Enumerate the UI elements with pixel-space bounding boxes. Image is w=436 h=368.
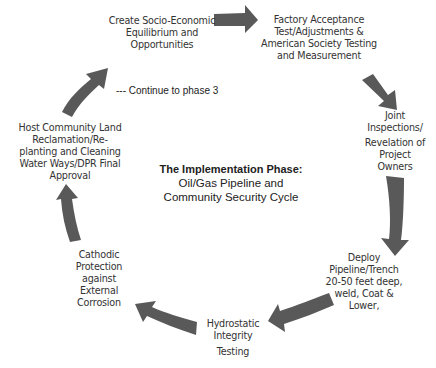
step-text: 20-50 feet deep, [324, 276, 404, 288]
step-text: Factory Acceptance [255, 14, 383, 26]
step-text: Inspections/ [360, 122, 430, 134]
continue-phase-note: --- Continue to phase 3 [116, 85, 218, 96]
step-factory-acceptance: Factory Acceptance Test/Adjustments & Am… [255, 14, 383, 62]
step-text: planting and Cleaning [6, 146, 134, 158]
step-text: Protection [66, 261, 132, 273]
step-text: Revelation of [360, 137, 430, 149]
step-text: Reclamation/Re- [6, 134, 134, 146]
step-text: Cathodic [66, 249, 132, 261]
step-joint-inspections: Joint Inspections/ Revelation of Project… [360, 110, 430, 173]
step-text: Project [360, 149, 430, 161]
step-text: Host Community Land [6, 122, 134, 134]
step-text: American Society Testing [255, 38, 383, 50]
step-hydrostatic-testing: Hydrostatic Integrity Testing [198, 318, 268, 358]
step-text: against [66, 273, 132, 285]
step-cathodic-protection: Cathodic Protection against External Cor… [66, 249, 132, 309]
step-text: Opportunities [101, 39, 223, 51]
step-text: Integrity [198, 330, 268, 342]
step-text: Owners [360, 161, 430, 173]
step-text: External [66, 285, 132, 297]
arrow-down-right-icon [362, 74, 397, 110]
step-text: weld, Coat & [324, 288, 404, 300]
arrow-left-bottom-icon [135, 301, 197, 335]
step-text: Pipeline/Trench [324, 264, 404, 276]
step-text: Corrosion [66, 297, 132, 309]
step-text: Water Ways/DPR Final [6, 158, 134, 170]
arrow-down-icon [381, 176, 409, 256]
title-heading: The Implementation Phase: [146, 162, 316, 176]
step-text: Hydrostatic [198, 318, 268, 330]
arrow-up-left-icon [56, 184, 81, 242]
step-text: Joint [360, 110, 430, 122]
step-text: Test/Adjustments & [255, 26, 383, 38]
step-text: Create Socio-Economic [101, 15, 223, 27]
step-text: Lower, [324, 300, 404, 312]
step-text: Deploy [324, 252, 404, 264]
step-text: Approval [6, 170, 134, 182]
diagram-title: The Implementation Phase: Oil/Gas Pipeli… [146, 162, 316, 204]
step-text: and Measurement [255, 50, 383, 62]
step-text: Testing [198, 346, 268, 358]
title-subtitle-line1: Oil/Gas Pipeline and [146, 176, 316, 190]
arrow-up-right-icon [62, 68, 108, 117]
step-host-community-reclamation: Host Community Land Reclamation/Re- plan… [6, 122, 134, 182]
title-subtitle-line2: Community Security Cycle [146, 190, 316, 204]
step-socio-economic: Create Socio-Economic Equilibrium and Op… [101, 15, 223, 51]
step-text: Equilibrium and [101, 27, 223, 39]
step-deploy-pipeline: Deploy Pipeline/Trench 20-50 feet deep, … [324, 252, 404, 312]
